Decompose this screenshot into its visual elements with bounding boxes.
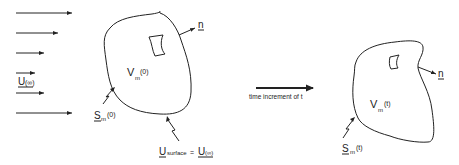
- label-subscript: m: [378, 107, 383, 113]
- label-text: S: [94, 110, 101, 121]
- label-superscript: (t): [356, 144, 363, 152]
- material-volume-diagram: U (∞) n V m (0) S m (0) U surface = U (∞…: [0, 0, 459, 165]
- freestream-velocity-label: U (∞): [18, 76, 35, 87]
- label-subscript: (∞): [25, 79, 35, 87]
- label-subscript: surface: [167, 150, 187, 156]
- time-increment-label: time increment of t: [249, 93, 303, 100]
- label-superscript: (0): [140, 68, 149, 76]
- label-subscript: m: [101, 116, 106, 122]
- volume-label-initial: V m (0): [127, 66, 149, 81]
- surface-label-deformed: S m (t): [342, 143, 363, 155]
- surface-pointer-initial: [103, 89, 113, 104]
- freestream-arrows: [16, 13, 72, 113]
- equals-sign: =: [190, 149, 194, 156]
- surface-element-deformed: [389, 55, 399, 69]
- normal-label-deformed: n: [438, 68, 444, 79]
- label-text: S: [342, 143, 349, 154]
- surface-velocity-label: U surface = U (∞): [159, 146, 213, 157]
- label-text: U: [159, 146, 166, 157]
- surface-label-initial: S m (0): [94, 110, 116, 122]
- normal-arrow-initial: [179, 28, 195, 35]
- label-superscript: (0): [107, 111, 116, 119]
- label-text: V: [370, 98, 378, 110]
- volume-label-deformed: V m (t): [370, 98, 391, 113]
- label-text: V: [127, 66, 135, 78]
- label-superscript: (t): [384, 100, 391, 108]
- label-subscript: (∞): [205, 150, 213, 156]
- normal-arrow-deformed: [418, 67, 436, 74]
- surface-element-initial: [149, 35, 165, 56]
- label-subscript: m: [350, 149, 355, 155]
- surface-pointer-deformed: [343, 120, 353, 138]
- label-subscript: m: [135, 75, 140, 81]
- surface-velocity-pointer: [168, 120, 179, 141]
- material-volume-initial: [104, 11, 191, 114]
- normal-label-initial: n: [198, 19, 204, 30]
